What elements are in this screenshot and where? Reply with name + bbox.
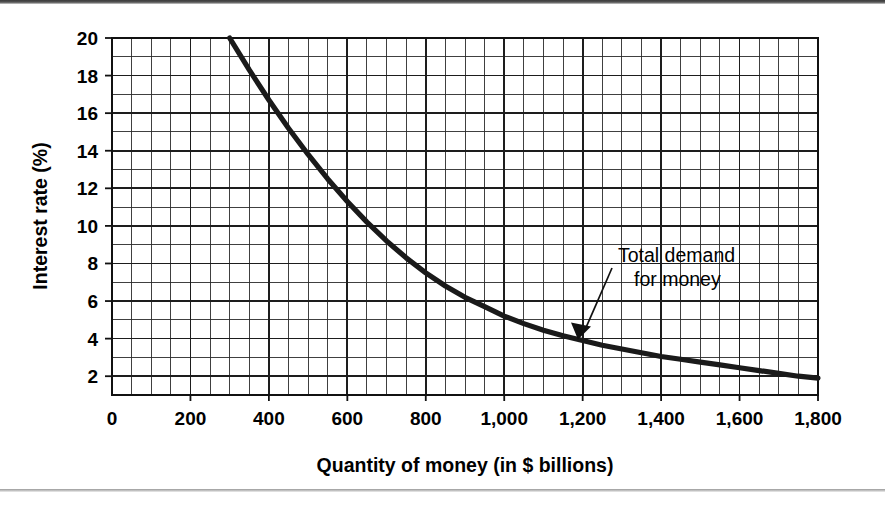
x-tick-label: 1,400 — [637, 408, 685, 429]
x-tick-label: 800 — [410, 408, 442, 429]
y-tick-label: 2 — [87, 366, 98, 387]
y-tick-label: 12 — [77, 178, 98, 199]
x-axis-title: Quantity of money (in $ billions) — [317, 454, 614, 476]
x-tick-label: 0 — [107, 408, 118, 429]
x-tick-label: 400 — [253, 408, 285, 429]
money-demand-chart: Total demand for money 02004006008001,00… — [0, 0, 885, 505]
y-tick-label: 10 — [77, 216, 98, 237]
annotation-arrow — [571, 268, 612, 340]
figure-container: Total demand for money 02004006008001,00… — [0, 0, 885, 505]
y-tick-label: 8 — [87, 253, 98, 274]
y-tick-label: 20 — [77, 28, 98, 49]
y-tick-label: 14 — [77, 141, 99, 162]
x-tick-label: 200 — [175, 408, 207, 429]
y-tick-label: 18 — [77, 66, 98, 87]
axis-tick-marks — [105, 38, 818, 401]
x-tick-label: 1,600 — [716, 408, 764, 429]
x-tick-label: 1,200 — [559, 408, 607, 429]
y-axis-tick-labels: 2468101214161820 — [77, 28, 99, 387]
annotation-line-2: for money — [634, 268, 721, 290]
minor-gridlines — [112, 38, 818, 395]
y-tick-label: 16 — [77, 103, 98, 124]
x-axis-tick-labels: 02004006008001,0001,2001,4001,6001,800 — [107, 408, 842, 429]
y-axis-title: Interest rate (%) — [29, 142, 51, 289]
annotation-line-1: Total demand — [618, 244, 735, 266]
x-tick-label: 1,800 — [794, 408, 842, 429]
x-tick-label: 600 — [331, 408, 363, 429]
y-tick-label: 4 — [87, 329, 98, 350]
y-tick-label: 6 — [87, 291, 98, 312]
x-tick-label: 1,000 — [480, 408, 528, 429]
